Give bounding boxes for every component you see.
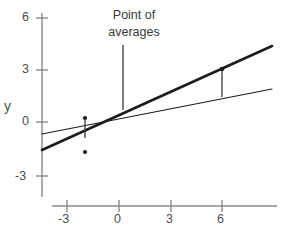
annotation-line-2: averages (88, 24, 180, 41)
x-tick-label-3: 3 (166, 213, 173, 226)
annotation-line-1: Point of (88, 7, 180, 24)
y-tick-label-3: 3 (22, 63, 29, 76)
y-tick-label-0: 0 (22, 115, 29, 128)
data-point (220, 67, 225, 72)
data-point (83, 150, 87, 154)
sd-line-thick (42, 46, 272, 150)
point-of-averages-annotation: Point of averages (88, 7, 180, 41)
y-tick-label-neg3: -3 (15, 170, 26, 183)
data-point (83, 116, 87, 120)
x-tick-label-neg3: -3 (58, 213, 69, 226)
x-tick-label-6: 6 (217, 213, 224, 226)
scatter-plot-figure: 6 3 0 -3 -3 0 3 6 y Point of averages (0, 0, 285, 233)
y-tick-label-6: 6 (22, 11, 29, 24)
regression-line-thin (42, 89, 272, 134)
x-tick-label-0: 0 (114, 213, 121, 226)
y-axis-title: y (4, 99, 11, 113)
